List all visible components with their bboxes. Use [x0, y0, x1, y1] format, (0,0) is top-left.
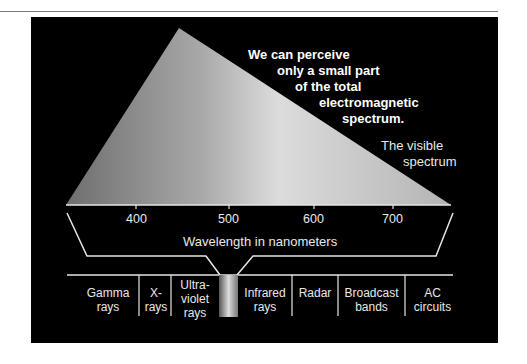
band-gamma: Gammarays: [78, 286, 138, 314]
caption-line-4: electromagnetic: [319, 95, 419, 111]
band-ultraviolet: Ultra-violetrays: [172, 278, 218, 320]
caption-line-3: of the total: [295, 79, 361, 95]
visible-label-2: spectrum: [403, 154, 456, 169]
band-ac-circuits: ACcircuits: [405, 286, 460, 314]
tick-600: 600: [303, 212, 324, 226]
band-xrays: X-rays: [141, 286, 171, 314]
tick-700: 700: [382, 212, 403, 226]
caption-line-5: spectrum.: [342, 111, 404, 127]
band-radar: Radar: [292, 286, 338, 300]
band-broadcast: Broadcastbands: [338, 286, 405, 314]
visible-band: [219, 275, 238, 317]
band-infrared: Infraredrays: [238, 286, 292, 314]
caption-line-2: only a small part: [277, 63, 380, 79]
axis-label: Wavelength in nanometers: [183, 234, 337, 249]
tick-400: 400: [126, 212, 147, 226]
caption-line-1: We can perceive: [248, 47, 350, 63]
visible-label-1: The visible: [381, 138, 443, 153]
tick-500: 500: [218, 212, 239, 226]
